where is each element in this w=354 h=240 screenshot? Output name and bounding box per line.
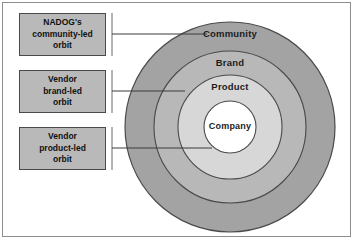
callout-brand-line-2: brand-led bbox=[43, 86, 82, 97]
ring-label-community: Community bbox=[185, 28, 275, 39]
ring-label-brand: Brand bbox=[193, 57, 267, 68]
ring-label-product: Product bbox=[190, 81, 270, 92]
ring-label-company: Company bbox=[197, 121, 263, 131]
callout-community-line-3: orbit bbox=[32, 40, 92, 51]
callout-brand-line-1: Vendor bbox=[43, 74, 82, 85]
callout-community-line-2: community-led bbox=[32, 29, 92, 40]
callout-box-product-led-orbit: Vendor product-led orbit bbox=[19, 127, 106, 170]
callout-box-community-led-orbit: NADOG's community-led orbit bbox=[19, 13, 106, 56]
callout-brand-line-3: orbit bbox=[43, 97, 82, 108]
callout-product-line-3: orbit bbox=[39, 154, 86, 165]
callout-product-line-1: Vendor bbox=[39, 131, 86, 142]
callout-product-line-2: product-led bbox=[39, 143, 86, 154]
callout-community-line-1: NADOG's bbox=[32, 17, 92, 28]
callout-box-brand-led-orbit: Vendor brand-led orbit bbox=[19, 70, 106, 113]
orbit-diagram-figure: Community Brand Product Company NADOG's … bbox=[0, 0, 354, 240]
